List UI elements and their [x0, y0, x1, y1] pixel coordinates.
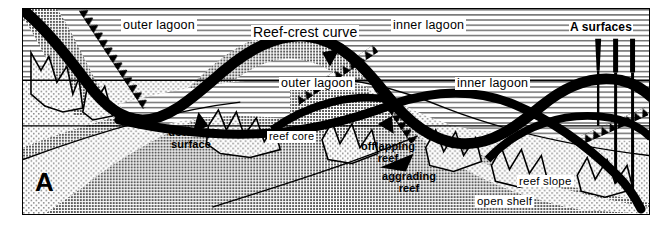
label-downlap-line2: surface — [154, 139, 228, 151]
label-aggrading-line2: reef — [372, 183, 446, 195]
label-offlapping-line1: offlapping — [352, 141, 424, 153]
label-downlap-line1: downlap — [154, 127, 228, 139]
label-inner-lagoon-lower: inner lagoon — [455, 77, 530, 90]
label-outer-lagoon-upper: outer lagoon — [121, 19, 197, 32]
label-offlapping-reef: offlapping reef — [351, 141, 425, 164]
label-a-surfaces: A surfaces — [569, 21, 633, 34]
label-aggrading-reef: aggrading reef — [371, 171, 447, 194]
label-reef-slope: reef slope — [517, 175, 574, 187]
label-aggrading-line1: aggrading — [372, 171, 446, 183]
label-downlap-surface: downlap surface — [153, 127, 229, 150]
label-offlapping-line2: reef — [352, 153, 424, 165]
panel-letter: A — [35, 169, 54, 195]
diagram-panel: outer lagoon inner lagoon Reef-crest cur… — [22, 8, 650, 215]
label-reef-crest-curve: Reef-crest curve — [251, 25, 359, 40]
label-inner-lagoon-upper: inner lagoon — [391, 19, 466, 32]
reef-cross-section-figure: outer lagoon inner lagoon Reef-crest cur… — [0, 0, 672, 231]
label-reef-core: reef core — [267, 131, 316, 143]
label-outer-lagoon-lower: outer lagoon — [279, 77, 355, 90]
label-open-shelf: open shelf — [475, 195, 534, 207]
